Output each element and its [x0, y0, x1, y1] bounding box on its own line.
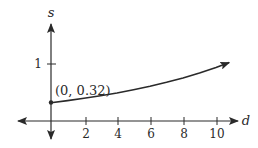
- x-axis-label: d: [242, 113, 250, 128]
- x-tick-label-4: 4: [114, 127, 122, 141]
- y-tick-label-1: 1: [34, 57, 42, 71]
- y-axis-label: s: [48, 5, 55, 20]
- chart: 2 4 6 8 10 1 s d (0, 0.32): [0, 0, 258, 148]
- point-label: (0, 0.32): [55, 83, 111, 98]
- x-tick-label-10: 10: [209, 127, 224, 141]
- x-tick-label-2: 2: [82, 127, 90, 141]
- x-tick-label-6: 6: [147, 127, 155, 141]
- x-tick-label-8: 8: [180, 127, 188, 141]
- initial-point: [49, 100, 53, 104]
